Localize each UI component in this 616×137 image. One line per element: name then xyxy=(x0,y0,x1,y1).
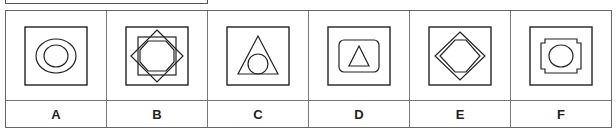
option-b[interactable]: B xyxy=(107,11,208,127)
option-d[interactable]: D xyxy=(309,11,410,127)
option-label: F xyxy=(511,101,611,127)
figure-cell xyxy=(511,11,611,101)
star-octagon-icon xyxy=(125,26,189,86)
figure-cell xyxy=(309,11,409,101)
option-c[interactable]: C xyxy=(208,11,309,127)
figure-cell xyxy=(107,11,207,101)
answer-options-table: A B C xyxy=(5,10,612,128)
figure-cell xyxy=(410,11,510,101)
option-f[interactable]: F xyxy=(511,11,611,127)
option-e[interactable]: E xyxy=(410,11,511,127)
figure-cell xyxy=(208,11,308,101)
previous-question-box xyxy=(5,0,208,4)
notched-square-circle-icon xyxy=(529,26,593,86)
option-label: E xyxy=(410,101,510,127)
triangle-circle-icon xyxy=(226,26,290,86)
figure-cell xyxy=(6,11,106,101)
option-label: C xyxy=(208,101,308,127)
option-label: A xyxy=(6,101,106,127)
option-a[interactable]: A xyxy=(6,11,107,127)
option-label: D xyxy=(309,101,409,127)
option-label: B xyxy=(107,101,207,127)
concentric-ovals-icon xyxy=(24,26,88,86)
rounded-square-triangle-icon xyxy=(327,26,391,86)
diamond-hexagon-icon xyxy=(428,26,492,86)
